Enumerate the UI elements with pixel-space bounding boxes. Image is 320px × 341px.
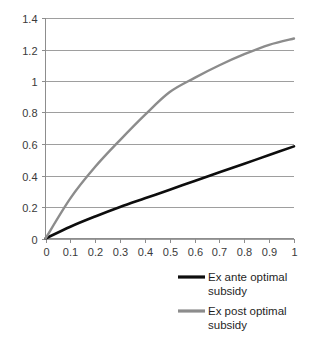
y-tick-label: 1.4 [22,13,37,25]
x-tick-label: 1 [291,246,297,258]
series-line [46,146,295,238]
series-line [46,38,295,238]
x-tick-label: 0.8 [237,246,252,258]
x-tick-label: 0.3 [113,246,128,258]
y-tick-label: 1 [31,76,37,88]
x-tick-label: 0.5 [163,246,178,258]
data-series [46,38,295,238]
y-tick-label: 0.6 [22,139,37,151]
x-tick-label: 0.9 [262,246,277,258]
y-tick-label: 0.2 [22,202,37,214]
y-tick-label: 1.2 [22,45,37,57]
y-tick-label: 0.8 [22,107,37,119]
y-tick-label: 0 [31,234,37,246]
x-tick-label: 0.2 [88,246,103,258]
x-tick-label: 0.1 [63,246,78,258]
line-chart-svg: 00.20.40.60.811.21.4 00.10.20.30.40.50.6… [0,0,320,341]
y-tick-label: 0.4 [22,171,37,183]
y-axis-tick-labels: 00.20.40.60.811.21.4 [22,13,37,246]
x-tick-label: 0 [43,246,49,258]
gridlines [42,19,295,240]
chart-figure: 00.20.40.60.811.21.4 00.10.20.30.40.50.6… [0,0,320,341]
x-axis-tick-labels: 00.10.20.30.40.50.60.70.80.91 [43,246,297,258]
x-tick-label: 0.7 [212,246,227,258]
x-tick-label: 0.6 [188,246,203,258]
x-tick-label: 0.4 [138,246,153,258]
